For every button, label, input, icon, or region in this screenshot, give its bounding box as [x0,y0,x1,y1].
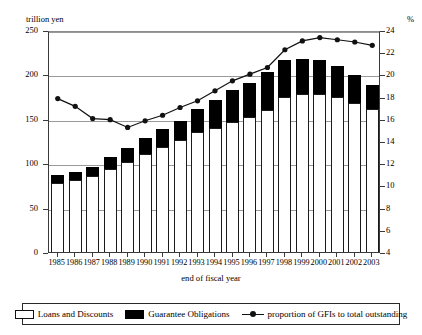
line-marker-1991 [160,113,165,118]
line-marker-1996 [247,72,252,77]
right-tick-mark-24 [380,31,385,32]
legend-label-proportion: proportion of GFIs to total outstanding [268,309,408,319]
x-tick-mark-1996 [249,253,250,257]
plot-area [48,31,380,253]
x-tick-mark-2003 [371,253,372,257]
x-tick-label-2003: 2003 [354,258,388,267]
x-tick-mark-1989 [127,253,128,257]
x-tick-mark-1986 [74,253,75,257]
line-marker-1998 [282,47,287,52]
line-marker-1999 [300,38,305,43]
left-tick-label-0: 0 [0,247,38,257]
x-tick-mark-1993 [197,253,198,257]
line-marker-2002 [352,39,357,44]
right-tick-label-12: 12 [386,158,416,168]
line-marker-1987 [90,116,95,121]
left-tick-label-250: 250 [0,25,38,35]
x-tick-mark-1985 [57,253,58,257]
left-tick-mark-50 [43,209,48,210]
line-marker-2000 [317,35,322,40]
white-box-swatch-icon [15,310,34,319]
line-marker-1990 [143,118,148,123]
legend-item-proportion: proportion of GFIs to total outstanding [242,309,408,319]
line-marker-1992 [177,105,182,110]
x-tick-mark-1995 [232,253,233,257]
legend-label-guarantee: Guarantee Obligations [148,309,229,319]
right-tick-label-18: 18 [386,92,416,102]
legend-item-guarantee: Guarantee Obligations [125,309,229,319]
line-marker-1995 [230,78,235,83]
right-tick-mark-6 [380,231,385,232]
left-tick-mark-150 [43,120,48,121]
right-tick-mark-20 [380,75,385,76]
x-tick-mark-1994 [214,253,215,257]
x-tick-mark-1998 [284,253,285,257]
line-marker-1986 [73,104,78,109]
chart-figure: trillion yen % 050100150200250 468101214… [0,0,422,335]
right-tick-label-6: 6 [386,225,416,235]
right-tick-label-14: 14 [386,136,416,146]
line-marker-2003 [370,43,375,48]
x-tick-mark-2002 [354,253,355,257]
left-tick-mark-0 [43,253,48,254]
x-tick-mark-1990 [144,253,145,257]
right-axis-unit-label: % [407,14,414,24]
line-marker-1994 [212,88,217,93]
right-tick-label-8: 8 [386,203,416,213]
x-tick-mark-1997 [266,253,267,257]
left-tick-mark-250 [43,31,48,32]
left-tick-label-50: 50 [0,203,38,213]
black-box-swatch-icon [125,310,144,319]
right-tick-mark-16 [380,120,385,121]
right-tick-mark-18 [380,98,385,99]
line-series [49,32,381,254]
line-marker-1985 [55,96,60,101]
line-marker-swatch-icon [242,310,264,319]
right-tick-mark-10 [380,186,385,187]
line-marker-1988 [108,117,113,122]
x-axis-title: end of fiscal year [0,273,422,283]
left-tick-label-150: 150 [0,114,38,124]
left-tick-mark-100 [43,164,48,165]
right-tick-mark-12 [380,164,385,165]
x-tick-mark-2001 [336,253,337,257]
left-tick-label-200: 200 [0,69,38,79]
right-tick-label-4: 4 [386,247,416,257]
x-tick-mark-1999 [301,253,302,257]
x-tick-mark-1992 [179,253,180,257]
chart-legend: Loans and Discounts Guarantee Obligation… [22,303,400,325]
right-tick-label-10: 10 [386,180,416,190]
right-tick-mark-22 [380,53,385,54]
line-marker-1993 [195,98,200,103]
x-tick-mark-1988 [109,253,110,257]
line-marker-1997 [265,65,270,70]
right-tick-label-24: 24 [386,25,416,35]
left-tick-label-100: 100 [0,158,38,168]
right-tick-mark-8 [380,209,385,210]
x-tick-mark-2000 [319,253,320,257]
right-tick-label-16: 16 [386,114,416,124]
right-tick-label-22: 22 [386,47,416,57]
left-axis-unit-label: trillion yen [26,14,64,24]
right-tick-label-20: 20 [386,69,416,79]
right-tick-mark-14 [380,142,385,143]
left-tick-mark-200 [43,75,48,76]
line-marker-2001 [335,37,340,42]
line-marker-1989 [125,125,130,130]
legend-item-loans: Loans and Discounts [15,309,114,319]
legend-label-loans: Loans and Discounts [38,309,114,319]
x-tick-mark-1991 [162,253,163,257]
x-tick-mark-1987 [92,253,93,257]
right-tick-mark-4 [380,253,385,254]
